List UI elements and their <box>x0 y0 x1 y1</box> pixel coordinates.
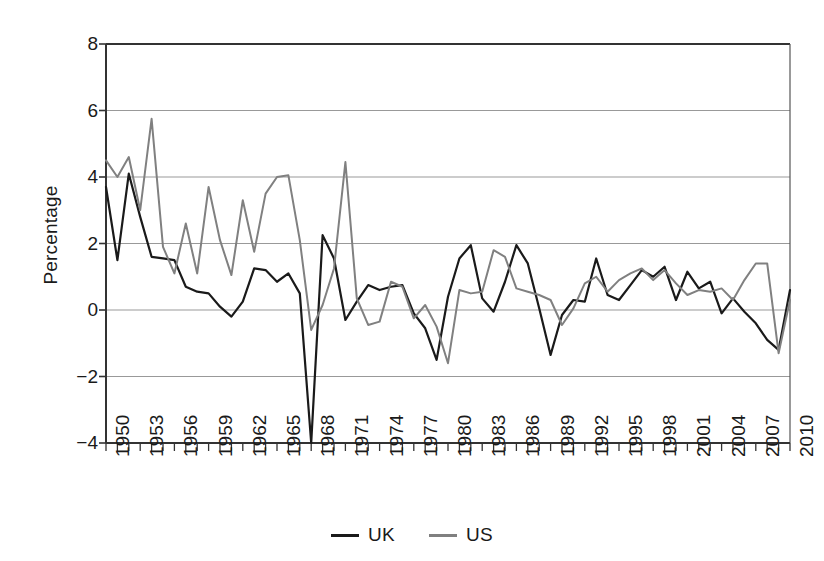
chart-container: Percentage −4−202468 1950195319561959196… <box>0 0 824 561</box>
legend-line-swatch <box>331 534 359 537</box>
series-line-uk <box>106 174 790 443</box>
legend-label: US <box>466 524 493 546</box>
legend-line-swatch <box>429 534 457 537</box>
legend-label: UK <box>368 524 395 546</box>
legend-item-uk[interactable]: UK <box>331 524 395 546</box>
series-line-us <box>106 119 790 363</box>
chart-legend: UKUS <box>0 519 824 551</box>
plot-area <box>0 0 824 561</box>
legend-item-us[interactable]: US <box>429 524 493 546</box>
